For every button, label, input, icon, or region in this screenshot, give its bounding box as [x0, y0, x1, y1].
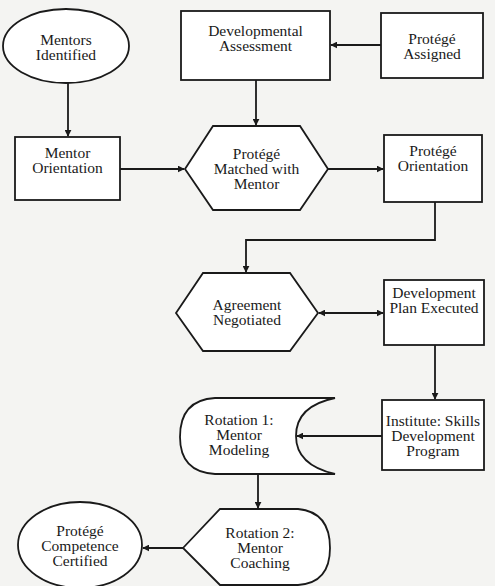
node-label-line: Identified — [36, 47, 96, 62]
node-label-line: Protégé — [233, 146, 280, 161]
node-label-line: Coaching — [230, 555, 289, 570]
edge-protege-orientation-to-agreement — [246, 202, 435, 272]
node-label-line: Mentors — [40, 32, 92, 47]
node-rotation-2: Rotation 2: Mentor Coaching — [200, 509, 320, 585]
node-label-line: Protégé — [56, 523, 103, 538]
node-label-line: Mentor — [45, 145, 91, 160]
node-label-line: Matched with — [214, 161, 300, 176]
node-protege-certified: Protégé Competence Certified — [18, 502, 142, 586]
node-mentor-orientation: Mentor Orientation — [15, 137, 120, 183]
node-label-line: Rotation 1: — [204, 412, 273, 427]
node-label-line: Institute: Skills — [386, 413, 480, 428]
flowchart-canvas: Mentors Identified Developmental Assessm… — [0, 0, 495, 586]
node-label-line: Developmental — [208, 23, 303, 38]
node-label-line: Certified — [52, 553, 107, 568]
node-label-line: Assigned — [403, 46, 461, 61]
node-agreement-negotiated: Agreement Negotiated — [176, 273, 318, 351]
node-developmental-assessment: Developmental Assessment — [181, 11, 330, 65]
node-label-line: Mentor — [216, 427, 262, 442]
node-label-line: Rotation 2: — [225, 525, 294, 540]
node-protege-matched: Protégé Matched with Mentor — [185, 126, 328, 210]
node-label-line: Agreement — [213, 297, 282, 312]
node-label-line: Negotiated — [213, 312, 281, 327]
node-protege-orientation: Protégé Orientation — [384, 135, 482, 180]
node-label-line: Assessment — [219, 38, 292, 53]
node-rotation-1: Rotation 1: Mentor Modeling — [180, 398, 298, 470]
node-institute-program: Institute: Skills Development Program — [382, 400, 484, 470]
node-label-line: Development — [392, 285, 476, 300]
node-label-line: Plan Executed — [389, 300, 478, 315]
node-label-line: Development — [391, 428, 475, 443]
node-label-line: Mentor — [234, 176, 280, 191]
node-label-line: Mentor — [237, 540, 283, 555]
node-label-line: Orientation — [398, 158, 469, 173]
node-label-line: Orientation — [32, 160, 103, 175]
node-label-line: Protégé — [408, 31, 455, 46]
node-label-line: Protégé — [409, 143, 456, 158]
node-development-plan-executed: Development Plan Executed — [384, 280, 484, 320]
node-label-line: Modeling — [209, 442, 269, 457]
node-protege-assigned: Protégé Assigned — [381, 13, 483, 78]
node-label-line: Program — [406, 443, 459, 458]
node-mentors-identified: Mentors Identified — [3, 10, 129, 83]
node-label-line: Competence — [41, 538, 118, 553]
